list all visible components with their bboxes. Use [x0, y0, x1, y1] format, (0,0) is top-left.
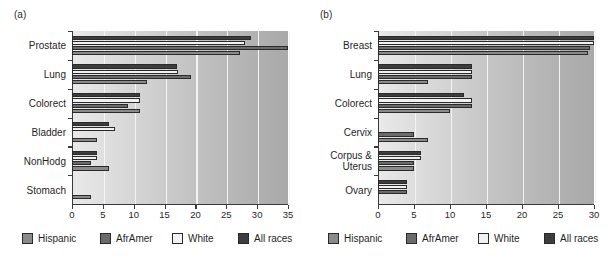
- gridline: [451, 31, 452, 204]
- legend-swatch-icon: [478, 233, 489, 244]
- y-tick: [374, 60, 378, 61]
- x-tick-label: 10: [128, 209, 139, 220]
- x-tick-label: 30: [252, 209, 263, 220]
- legend-item: Hispanic: [22, 233, 76, 244]
- gridline: [595, 31, 596, 204]
- gridline: [196, 31, 197, 204]
- y-tick: [374, 31, 378, 32]
- gridline: [487, 31, 488, 204]
- bar: [378, 104, 472, 108]
- legend-swatch-icon: [406, 233, 417, 244]
- y-tick: [68, 31, 72, 32]
- x-tick-label: 20: [190, 209, 201, 220]
- plot-area-a: [72, 31, 288, 204]
- category-label: Colorect: [335, 98, 372, 109]
- legend-item: White: [478, 233, 520, 244]
- plot-area-b: [378, 31, 594, 204]
- x-tick-label: 20: [517, 209, 528, 220]
- legend-a: HispanicAfrAmerWhiteAll races: [22, 231, 292, 245]
- bar: [72, 70, 178, 74]
- bar: [378, 80, 428, 84]
- legend-swatch-icon: [100, 233, 111, 244]
- y-tick: [374, 146, 378, 147]
- legend-label: All races: [560, 233, 598, 244]
- category-label: Stomach: [27, 184, 66, 195]
- category-label: Colorect: [29, 98, 66, 109]
- legend-label: AfrAmer: [116, 233, 153, 244]
- bar: [378, 109, 450, 113]
- bar: [378, 190, 407, 194]
- legend-swatch-icon: [238, 233, 249, 244]
- x-tick-label: 0: [69, 209, 74, 220]
- x-tick-label: 5: [100, 209, 105, 220]
- y-tick: [374, 118, 378, 119]
- gridline: [559, 31, 560, 204]
- x-tick-label: 35: [283, 209, 294, 220]
- bar: [378, 51, 588, 55]
- panel-b-label: (b): [320, 9, 332, 20]
- bar: [378, 156, 421, 160]
- y-tick: [374, 89, 378, 90]
- bar: [378, 93, 464, 97]
- bar: [72, 75, 191, 79]
- panel-a: (a) 05101520253035 ProstateLungColorectB…: [0, 0, 306, 264]
- y-tick: [374, 175, 378, 176]
- bar: [72, 51, 240, 55]
- legend-swatch-icon: [544, 233, 555, 244]
- x-tick-label: 30: [589, 209, 600, 220]
- bar: [378, 185, 407, 189]
- bar: [72, 93, 140, 97]
- category-label: Bladder: [32, 126, 66, 137]
- gridline: [415, 31, 416, 204]
- legend-item: All races: [544, 233, 598, 244]
- y-tick: [68, 60, 72, 61]
- gridline: [135, 31, 136, 204]
- x-tick-label: 5: [411, 209, 416, 220]
- x-tick-label: 25: [553, 209, 564, 220]
- panel-b: (b) 051015202530 BreastLungColorectCervi…: [306, 0, 612, 264]
- bar: [378, 138, 428, 142]
- gridline: [227, 31, 228, 204]
- legend-item: White: [172, 233, 214, 244]
- bar: [378, 36, 594, 40]
- bar: [378, 98, 472, 102]
- legend-label: All races: [254, 233, 292, 244]
- y-tick: [68, 89, 72, 90]
- category-label: NonHodg: [24, 155, 66, 166]
- legend-label: White: [188, 233, 214, 244]
- y-tick: [68, 175, 72, 176]
- bar: [72, 46, 288, 50]
- category-label: Lung: [350, 69, 372, 80]
- bar: [378, 161, 414, 165]
- legend-item: AfrAmer: [100, 233, 153, 244]
- bar: [72, 138, 97, 142]
- bar: [378, 64, 472, 68]
- bar: [72, 36, 251, 40]
- figure-container: (a) 05101520253035 ProstateLungColorectB…: [0, 0, 612, 264]
- gridline: [166, 31, 167, 204]
- x-tick-label: 10: [445, 209, 456, 220]
- bar: [72, 151, 97, 155]
- legend-swatch-icon: [22, 233, 33, 244]
- bar: [72, 122, 109, 126]
- bar: [72, 161, 91, 165]
- bar: [72, 109, 140, 113]
- category-label: Corpus &Uterus: [330, 150, 372, 172]
- legend-item: AfrAmer: [406, 233, 459, 244]
- gridline: [289, 31, 290, 204]
- x-tick-label: 25: [221, 209, 232, 220]
- bar: [72, 41, 245, 45]
- legend-item: Hispanic: [328, 233, 382, 244]
- legend-label: White: [494, 233, 520, 244]
- category-label: Breast: [343, 40, 372, 51]
- bar: [72, 195, 91, 199]
- legend-label: Hispanic: [38, 233, 76, 244]
- bar: [72, 166, 109, 170]
- bar: [72, 156, 97, 160]
- bar: [378, 151, 421, 155]
- bar: [72, 98, 140, 102]
- x-axis-line: [72, 204, 288, 205]
- legend-item: All races: [238, 233, 292, 244]
- legend-label: Hispanic: [344, 233, 382, 244]
- x-tick-label: 15: [481, 209, 492, 220]
